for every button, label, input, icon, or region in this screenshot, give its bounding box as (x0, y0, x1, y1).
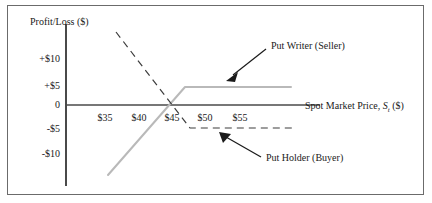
x-axis-title-prefix: Spot Market Price, (305, 100, 383, 111)
y-tick-label-neg5: -$5 (18, 124, 60, 134)
x-tick-label-40: $40 (123, 113, 155, 123)
x-tick-label-50: $50 (189, 113, 221, 123)
annotation-put-writer: Put Writer (Seller) (271, 40, 345, 51)
put-holder-arrow (219, 132, 261, 157)
chart-title: Profit/Loss ($) (30, 16, 89, 27)
figure-container: Profit/Loss ($) +$10 +$5 0 -$5 -$10 $35 … (0, 0, 432, 203)
series-put-writer-line (108, 87, 291, 175)
y-tick-label-0: 0 (18, 100, 60, 110)
x-axis-title: Spot Market Price, St ($) (305, 100, 404, 114)
annotation-put-holder: Put Holder (Buyer) (266, 152, 343, 163)
y-tick-label-10: +$10 (18, 54, 60, 64)
x-tick-label-45: $45 (156, 113, 188, 123)
y-tick-label-neg10: -$10 (18, 149, 60, 159)
x-axis-title-suffix: ($) (390, 100, 404, 111)
y-tick-label-5: +$5 (18, 81, 60, 91)
x-tick-label-55: $55 (224, 113, 256, 123)
put-writer-arrow (226, 49, 266, 82)
x-tick-label-35: $35 (89, 113, 121, 123)
